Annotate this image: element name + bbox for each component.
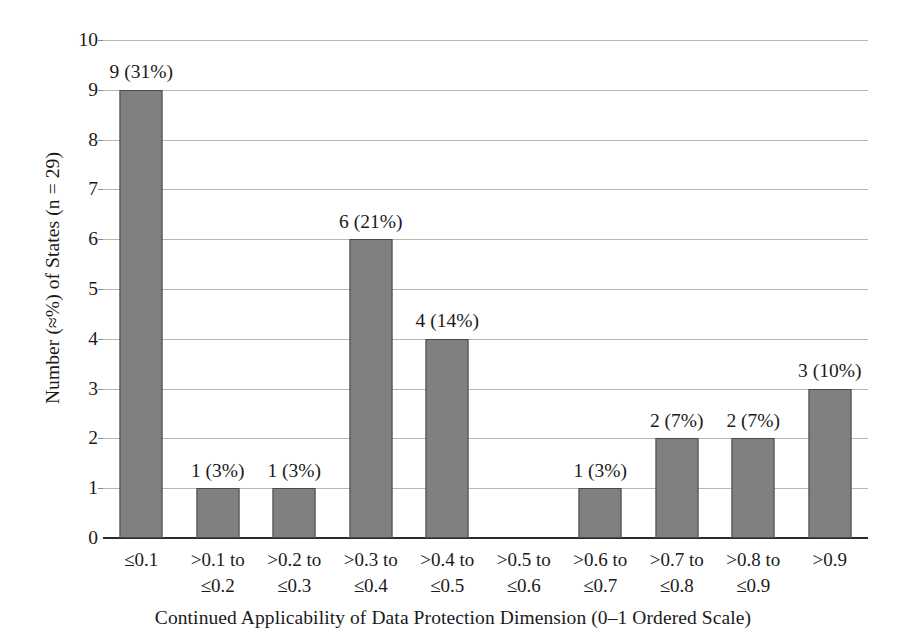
x-axis-tick-labels: ≤0.1 >0.1 to ≤0.2 >0.2 to ≤0.3 >0.3 to ≤…: [103, 547, 868, 603]
y-tick-label: 5: [58, 279, 98, 299]
x-tick-label: >0.4 to ≤0.5: [409, 547, 486, 599]
bar-value-label: 6 (21%): [339, 212, 402, 232]
x-tick-label-line1: >0.2 to: [256, 547, 333, 573]
x-tick-label-line2: ≤0.6: [486, 573, 563, 599]
bar-slot: [486, 40, 563, 538]
x-tick-label-line2: ≤0.8: [639, 573, 716, 599]
bar-chart-figure: Number (≈%) of States (n = 29) 10 9 8 7 …: [0, 0, 906, 643]
x-tick-label-line1: ≤0.1: [103, 547, 180, 573]
bar[interactable]: [196, 488, 239, 538]
x-tick-label: >0.7 to ≤0.8: [639, 547, 716, 599]
bar[interactable]: [120, 90, 163, 538]
y-tick-label: 7: [58, 180, 98, 200]
bar[interactable]: [579, 488, 622, 538]
x-tick-label-line1: >0.9: [792, 547, 869, 573]
bar-value-label: 1 (3%): [191, 461, 245, 481]
bar-slot: 3 (10%): [792, 40, 869, 538]
x-tick-label-line1: >0.5 to: [486, 547, 563, 573]
x-tick-label-line2: ≤0.7: [562, 573, 639, 599]
bar-value-label: 2 (7%): [650, 411, 704, 431]
bar-value-label: 9 (31%): [110, 62, 173, 82]
bar-slot: 1 (3%): [180, 40, 257, 538]
bar-slot: 1 (3%): [562, 40, 639, 538]
bar-value-label: 1 (3%): [573, 461, 627, 481]
bar-value-label: 3 (10%): [798, 361, 861, 381]
y-tick-label: 3: [58, 379, 98, 399]
bar-slot: 2 (7%): [639, 40, 716, 538]
y-tick-label: 0: [58, 528, 98, 548]
y-tick-label: 4: [58, 329, 98, 349]
x-tick-label-line2: ≤0.5: [409, 573, 486, 599]
x-tick-label-line2: ≤0.9: [715, 573, 792, 599]
bar[interactable]: [349, 239, 392, 538]
plot-area: 9 (31%) 1 (3%) 1 (3%) 6 (21%) 4 (14%) 1 …: [103, 40, 868, 538]
bar-slot: 6 (21%): [333, 40, 410, 538]
x-tick-label-line1: >0.4 to: [409, 547, 486, 573]
x-tick-label-line1: >0.1 to: [180, 547, 257, 573]
bar-slot: 1 (3%): [256, 40, 333, 538]
x-tick-label-line1: >0.7 to: [639, 547, 716, 573]
x-tick-label: >0.6 to ≤0.7: [562, 547, 639, 599]
x-tick-label-line1: >0.6 to: [562, 547, 639, 573]
x-axis-title: Continued Applicability of Data Protecti…: [0, 608, 906, 628]
x-tick-label: >0.3 to ≤0.4: [333, 547, 410, 599]
x-tick-label-line1: >0.8 to: [715, 547, 792, 573]
x-tick-label: >0.8 to ≤0.9: [715, 547, 792, 599]
bar[interactable]: [808, 389, 851, 538]
bar-slot: 9 (31%): [103, 40, 180, 538]
bar-value-label: 4 (14%): [416, 311, 479, 331]
y-tick-label: 8: [58, 130, 98, 150]
bar-slot: 2 (7%): [715, 40, 792, 538]
y-axis-tick-labels: 10 9 8 7 6 5 4 3 2 1 0: [58, 40, 98, 538]
bar-value-label: 1 (3%): [267, 461, 321, 481]
x-tick-label-line2: ≤0.2: [180, 573, 257, 599]
bar[interactable]: [655, 438, 698, 538]
x-tick-label: >0.1 to ≤0.2: [180, 547, 257, 599]
y-tick-label: 1: [58, 478, 98, 498]
bar-value-label: 2 (7%): [726, 411, 780, 431]
x-tick-label-line2: ≤0.4: [333, 573, 410, 599]
bar[interactable]: [273, 488, 316, 538]
y-tick-label: 2: [58, 429, 98, 449]
x-tick-label-line1: >0.3 to: [333, 547, 410, 573]
x-tick-label: ≤0.1: [103, 547, 180, 573]
x-tick-label-line2: ≤0.3: [256, 573, 333, 599]
bar-slot: 4 (14%): [409, 40, 486, 538]
x-tick-label: >0.5 to ≤0.6: [486, 547, 563, 599]
bar[interactable]: [732, 438, 775, 538]
y-tick-label: 10: [58, 30, 98, 50]
y-tick-label: 9: [58, 80, 98, 100]
y-tick-label: 6: [58, 229, 98, 249]
x-tick-label: >0.2 to ≤0.3: [256, 547, 333, 599]
bar[interactable]: [426, 339, 469, 538]
x-tick-label: >0.9: [792, 547, 869, 573]
